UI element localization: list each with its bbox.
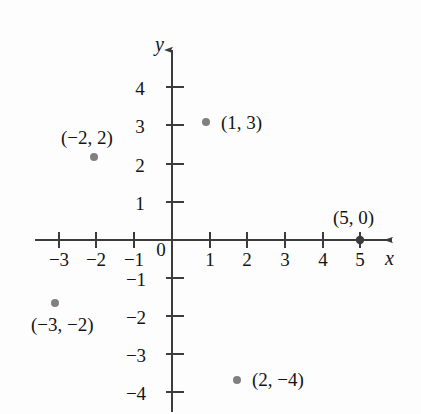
x-tick-label--2: −2 [78, 250, 114, 269]
data-point--3--2 [51, 299, 59, 307]
data-point-5-0 [356, 236, 364, 244]
data-point--2-2 [90, 153, 98, 161]
y-tick-label--2: −2 [118, 308, 154, 327]
x-tick-label-5: 5 [347, 250, 373, 269]
data-point-1-3 [202, 118, 210, 126]
y-tick-label-2: 2 [127, 156, 153, 175]
y-tick-label-1: 1 [127, 194, 153, 213]
point-label-1-3: (1, 3) [221, 113, 262, 132]
x-tick-label--1: −1 [116, 250, 152, 269]
origin-label: 0 [151, 240, 171, 259]
point-label--2-2: (−2, 2) [61, 128, 113, 147]
coordinate-plane-figure: y x 0 −3 −2 −1 1 2 3 4 5 4 3 2 1 −1 −2 −… [0, 0, 421, 414]
point-label-5-0: (5, 0) [333, 208, 374, 227]
y-tick-label--1: −1 [118, 270, 154, 289]
x-tick-label--3: −3 [41, 250, 77, 269]
y-tick-label--4: −4 [118, 384, 154, 403]
y-axis-label: y [155, 34, 164, 54]
point-label-2--4: (2, −4) [252, 370, 304, 389]
x-axis-label: x [385, 248, 394, 268]
x-tick-label-4: 4 [310, 250, 336, 269]
x-tick-label-2: 2 [234, 250, 260, 269]
y-tick-label-4: 4 [127, 79, 153, 98]
point-label--3--2: (−3, −2) [31, 315, 94, 334]
y-tick-label--3: −3 [118, 346, 154, 365]
x-tick-label-1: 1 [197, 250, 223, 269]
y-tick-label-3: 3 [127, 117, 153, 136]
x-tick-label-3: 3 [272, 250, 298, 269]
data-point-2--4 [233, 376, 241, 384]
